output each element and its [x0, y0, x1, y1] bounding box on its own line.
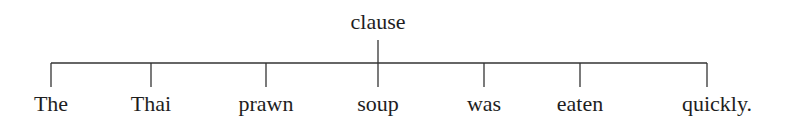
leaf-word: quickly. [682, 91, 752, 117]
leaf-word: Thai [131, 91, 171, 117]
leaf-word: was [467, 91, 501, 117]
leaf-word: The [34, 91, 68, 117]
leaf-word: soup [357, 91, 399, 117]
root-node-label: clause [351, 9, 406, 35]
leaf-word: eaten [557, 91, 603, 117]
leaf-word: prawn [239, 91, 294, 117]
